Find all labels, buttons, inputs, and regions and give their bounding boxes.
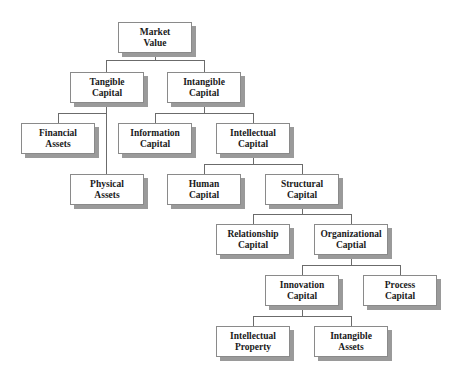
node-structural-capital: Structural Capital xyxy=(265,174,339,205)
node-organizational-capital: Organizational Captial xyxy=(314,224,388,255)
connector xyxy=(155,113,254,114)
connector xyxy=(302,265,303,275)
connector xyxy=(351,256,352,265)
market-value-hierarchy-diagram: Market Value Tangible Capital Intangible… xyxy=(0,0,460,379)
connector xyxy=(253,214,254,224)
node-intangible-capital: Intangible Capital xyxy=(167,72,241,103)
node-relationship-capital: Relationship Capital xyxy=(216,224,290,255)
node-label: Intellectual Capital xyxy=(230,128,276,150)
connector xyxy=(155,113,156,123)
connector xyxy=(106,60,205,61)
node-label: Financial Assets xyxy=(39,128,77,150)
connector xyxy=(253,316,352,317)
connector xyxy=(302,306,303,316)
connector xyxy=(253,316,254,326)
node-label: Market Value xyxy=(140,27,171,49)
connector xyxy=(253,214,352,215)
connector xyxy=(400,265,401,275)
node-label: Structural Capital xyxy=(281,179,323,201)
connector xyxy=(204,103,205,113)
connector xyxy=(106,60,107,72)
node-label: Organizational Captial xyxy=(320,229,381,251)
node-label: Human Capital xyxy=(189,179,220,201)
connector xyxy=(351,316,352,326)
connector xyxy=(204,164,205,174)
connector xyxy=(155,53,156,60)
node-market-value: Market Value xyxy=(118,22,192,53)
node-label: Intangible Assets xyxy=(330,331,372,353)
node-label: Information Capital xyxy=(130,128,180,150)
connector xyxy=(58,113,107,114)
node-intangible-assets: Intangible Assets xyxy=(314,326,388,357)
node-label: Intangible Capital xyxy=(183,77,225,99)
connector xyxy=(253,113,254,123)
connector xyxy=(302,205,303,214)
node-financial-assets: Financial Assets xyxy=(21,123,95,154)
node-label: Tangible Capital xyxy=(89,77,124,99)
node-intellectual-property: Intellectual Property xyxy=(216,326,290,357)
node-physical-assets: Physical Assets xyxy=(70,174,144,205)
connector xyxy=(302,265,401,266)
node-label: Relationship Capital xyxy=(227,229,278,251)
node-innovation-capital: Innovation Capital xyxy=(265,275,339,306)
node-label: Intellectual Property xyxy=(230,331,276,353)
node-human-capital: Human Capital xyxy=(167,174,241,205)
connector xyxy=(302,164,303,174)
node-label: Physical Assets xyxy=(90,179,124,201)
node-intellectual-capital: Intellectual Capital xyxy=(216,123,290,154)
connector xyxy=(58,113,59,123)
node-tangible-capital: Tangible Capital xyxy=(70,72,144,103)
node-information-capital: Information Capital xyxy=(118,123,192,154)
connector xyxy=(204,60,205,72)
node-process-capital: Process Capital xyxy=(363,275,437,306)
node-label: Process Capital xyxy=(385,280,415,302)
node-label: Innovation Capital xyxy=(280,280,324,302)
connector xyxy=(253,154,254,164)
connector xyxy=(351,214,352,224)
connector xyxy=(204,164,303,165)
